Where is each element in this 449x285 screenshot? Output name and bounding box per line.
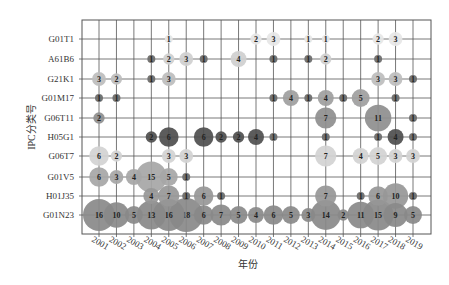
svg-text:1: 1 [376,133,380,142]
bubble: 2 [93,112,104,123]
x-tick-label: 2011 [264,234,284,251]
bubble: 7 [211,204,232,225]
svg-text:6: 6 [376,192,380,201]
x-tick-label: 2001 [90,234,111,252]
bubble: 2 [372,33,383,44]
svg-text:1: 1 [411,133,415,142]
svg-text:4: 4 [132,173,136,182]
svg-text:1: 1 [219,192,223,201]
bubble: 1 [269,133,277,142]
bubble-chart: 1816161515141311111010977777666666665555… [0,0,449,285]
bubble: 3 [389,72,403,86]
svg-text:2: 2 [114,75,118,84]
bubble: 1 [322,35,330,44]
svg-text:4: 4 [324,94,328,103]
bubble: 4 [353,148,369,164]
svg-text:3: 3 [167,152,171,161]
svg-text:3: 3 [271,35,275,44]
bubble: 1 [200,55,208,64]
bubble: 3 [162,72,176,86]
svg-text:13: 13 [147,211,155,220]
y-tick-label: G01M17 [41,93,74,103]
bubble: 9 [384,203,408,227]
bubble: 3 [162,149,176,163]
y-tick-label: H01J35 [46,191,75,201]
svg-text:6: 6 [202,192,206,201]
y-tick-label: G21K1 [48,74,75,84]
y-tick-label: G06T7 [49,151,75,161]
x-tick-label: 2005 [160,234,181,252]
bubble: 2 [163,53,174,64]
bubble: 1 [409,114,417,123]
bubble: 3 [110,170,124,184]
svg-text:3: 3 [394,75,398,84]
svg-text:2: 2 [149,133,153,142]
bubble: 6 [194,186,214,206]
bubble: 6 [194,205,214,225]
bubble: 3 [371,72,385,86]
svg-text:1: 1 [324,35,328,44]
svg-text:5: 5 [289,211,293,220]
x-tick-label: 2003 [125,234,146,252]
svg-text:5: 5 [359,94,363,103]
svg-text:1: 1 [202,55,206,64]
svg-text:6: 6 [202,133,206,142]
svg-text:1: 1 [306,35,310,44]
bubble: 1 [217,192,225,201]
svg-text:2: 2 [324,55,328,64]
x-tick-label: 2013 [299,234,320,252]
bubble: 4 [143,188,159,204]
y-tick-label: G06T11 [44,113,74,123]
bubble: 1 [304,55,312,64]
bubble: 4 [283,90,299,106]
x-tick-label: 2018 [387,234,408,252]
svg-text:3: 3 [411,152,415,161]
bubble: 1 [269,94,277,103]
svg-text:7: 7 [167,192,171,201]
svg-text:6: 6 [202,211,206,220]
y-tick-labels: G01T1A61B6G21K1G01M17G06T11H05G1G06T7G01… [41,34,74,220]
bubble: 1 [165,35,173,44]
svg-text:4: 4 [254,211,258,220]
svg-text:5: 5 [411,211,415,220]
bubble: 7 [315,185,336,206]
svg-text:5: 5 [132,211,136,220]
bubble: 5 [160,168,178,186]
bubble: 6 [89,146,109,166]
svg-text:1: 1 [324,133,328,142]
svg-text:1: 1 [167,35,171,44]
bubble: 3 [179,52,193,66]
bubble: 1 [269,55,277,64]
svg-text:1: 1 [271,55,275,64]
svg-text:1: 1 [184,192,188,201]
svg-text:1: 1 [411,114,415,123]
svg-text:2: 2 [97,114,101,123]
bubble: 1 [357,192,365,201]
x-tick-label: 2002 [107,234,128,252]
svg-text:2: 2 [376,35,380,44]
svg-text:1: 1 [271,133,275,142]
svg-text:14: 14 [322,211,330,220]
svg-text:2: 2 [219,133,223,142]
bubble: 2 [233,131,244,142]
svg-text:2: 2 [254,35,258,44]
bubble: 4 [318,90,334,106]
bubble: 1 [409,192,417,201]
svg-text:7: 7 [324,114,328,123]
y-tick-label: A61B6 [48,54,75,64]
bubble: 11 [365,105,392,132]
x-tick-label: 2016 [352,234,373,252]
svg-text:3: 3 [97,75,101,84]
svg-text:11: 11 [357,211,365,220]
svg-text:11: 11 [374,114,382,123]
svg-text:4: 4 [289,94,293,103]
bubble: 2 [111,73,122,84]
svg-text:4: 4 [254,133,258,142]
bubble: 5 [369,147,387,165]
bubble: 1 [392,94,400,103]
bubble: 7 [315,145,336,166]
x-tick-label: 2014 [317,234,338,252]
bubble: 6 [194,127,214,147]
svg-text:4: 4 [359,152,363,161]
bubble: 2 [338,209,349,220]
